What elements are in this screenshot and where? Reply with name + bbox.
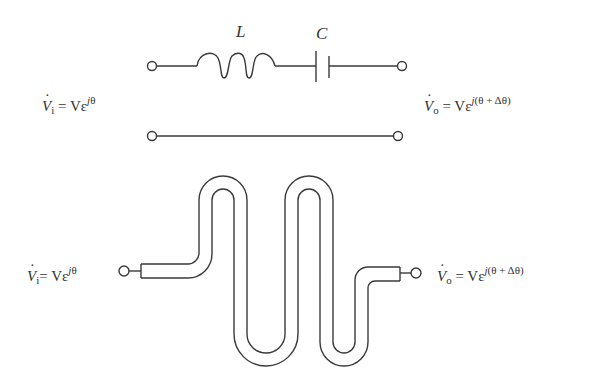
voltage-symbol: ·V [424,98,433,114]
circuit-diagram [0,0,591,392]
meander-input-voltage-label: ·Vi= Vεjθ [27,264,77,286]
inductor-label: L [236,22,245,42]
meander-output-terminal [411,268,421,278]
capacitor-label: C [316,24,327,44]
meander-input-terminal [119,266,129,276]
voltage-symbol: ·V [42,98,51,114]
output-terminal-bottom [394,132,403,141]
voltage-symbol: ·V [27,268,36,284]
voltage-symbol: ·V [437,268,446,284]
inductor-coil [197,53,275,78]
input-terminal-bottom [148,132,157,141]
meander-transmission-line [119,176,421,366]
input-terminal-top [148,62,157,71]
lumped-lc-circuit [148,51,407,141]
top-output-voltage-label: ·Vo = Vεj(θ + Δθ) [424,94,511,116]
meander-outer-edge [141,176,400,353]
meander-output-voltage-label: ·Vo = Vεj(θ + Δθ) [437,264,524,286]
meander-inner-edge [141,189,400,366]
top-input-voltage-label: ·Vi = Vεjθ [42,94,95,116]
output-terminal-top [398,62,407,71]
